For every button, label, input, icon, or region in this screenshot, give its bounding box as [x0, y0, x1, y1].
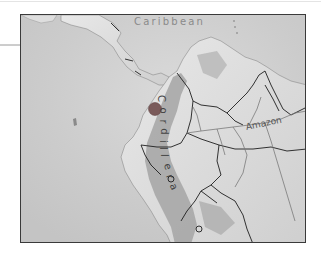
map-panel[interactable]: Caribbean Amazon C o r d i l l e r a — [20, 14, 306, 243]
range-letter: r — [158, 119, 169, 123]
range-letter: i — [158, 140, 169, 143]
range-letter: l — [158, 147, 169, 150]
range-letter: o — [158, 107, 169, 113]
range-letter: C — [156, 95, 167, 102]
sea-label: Caribbean — [134, 16, 205, 27]
range-letter: l — [159, 154, 170, 157]
range-letter: d — [159, 128, 170, 134]
top-divider — [0, 1, 321, 2]
